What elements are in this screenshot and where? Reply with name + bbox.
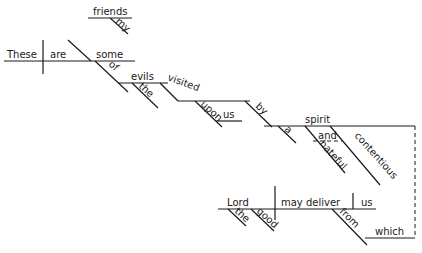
word-are: are bbox=[50, 49, 66, 60]
word-us-2: us bbox=[361, 197, 373, 208]
complement-divider bbox=[68, 40, 91, 61]
word-contentious: contentious bbox=[353, 130, 400, 181]
word-some: some bbox=[96, 49, 123, 60]
word-spirit: spirit bbox=[305, 114, 330, 125]
word-these: These bbox=[6, 49, 37, 60]
word-evils: evils bbox=[131, 71, 154, 82]
sentence-diagram: friends my These are some of evils the v… bbox=[0, 0, 422, 253]
visited-slant bbox=[160, 83, 178, 101]
word-visited: visited bbox=[166, 72, 201, 94]
word-by: by bbox=[254, 100, 271, 116]
word-us-1: us bbox=[223, 109, 235, 120]
word-the-2: the bbox=[233, 205, 253, 224]
word-may-deliver: may deliver bbox=[281, 197, 341, 208]
word-a: a bbox=[283, 123, 295, 135]
word-which: which bbox=[375, 226, 404, 237]
word-upon: upon bbox=[199, 98, 225, 123]
